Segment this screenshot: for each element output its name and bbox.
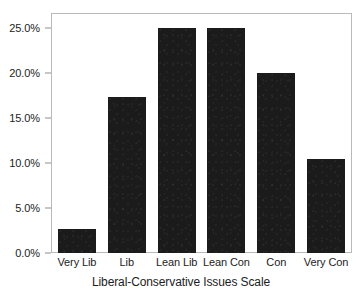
bar <box>58 229 96 253</box>
x-axis: Very LibLibLean LibLean ConConVery Con <box>0 256 362 274</box>
y-axis-tick-mark <box>45 27 51 28</box>
bar <box>257 73 295 253</box>
x-axis-tick-label: Lib <box>120 256 134 268</box>
y-axis-tick-label: 25.0% <box>9 22 40 34</box>
y-axis-tick-mark <box>45 72 51 73</box>
y-axis-tick-label: 5.0% <box>15 202 40 214</box>
y-axis-tick-mark <box>45 117 51 118</box>
bar <box>108 97 146 253</box>
x-axis-title: Liberal-Conservative Issues Scale <box>0 275 362 289</box>
y-axis-tick-mark <box>45 207 51 208</box>
x-axis-tick-label: Con <box>266 256 286 268</box>
bar <box>207 28 245 253</box>
x-axis-tick-label: Very Con <box>304 256 348 268</box>
bar <box>307 159 345 253</box>
y-axis-tick-mark <box>45 162 51 163</box>
y-axis-tick-mark <box>45 253 51 254</box>
x-axis-tick-label: Lean Con <box>203 256 250 268</box>
y-axis-tick-label: 10.0% <box>9 157 40 169</box>
y-axis-tick-label: 20.0% <box>9 67 40 79</box>
y-axis-tick-label: 15.0% <box>9 112 40 124</box>
y-axis: 0.0%5.0%10.0%15.0%20.0%25.0% <box>0 0 51 297</box>
bar <box>158 28 196 253</box>
x-axis-tick-label: Lean Lib <box>156 256 197 268</box>
x-axis-tick-label: Very Lib <box>57 256 96 268</box>
bars-group <box>52 14 351 253</box>
bar-chart: 0.0%5.0%10.0%15.0%20.0%25.0% Very LibLib… <box>0 0 362 297</box>
